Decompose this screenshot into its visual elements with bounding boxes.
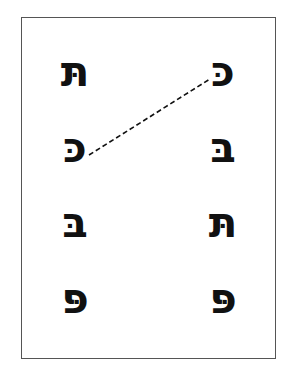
right-letter-2[interactable]: בּ xyxy=(201,126,245,170)
left-letter-1[interactable]: תּ xyxy=(53,50,97,94)
right-letter-1[interactable]: כּ xyxy=(201,50,245,94)
left-letter-3[interactable]: בּ xyxy=(53,201,97,245)
left-letter-4[interactable]: פּ xyxy=(53,277,97,321)
left-letter-2[interactable]: כּ xyxy=(53,126,97,170)
right-letter-3[interactable]: תּ xyxy=(201,201,245,245)
right-letter-4[interactable]: פּ xyxy=(201,277,245,321)
